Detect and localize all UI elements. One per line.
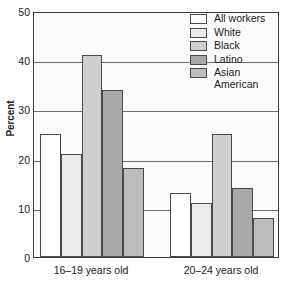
y-tick-label: 20 bbox=[8, 155, 30, 165]
bar bbox=[212, 134, 233, 257]
y-tick-label: 40 bbox=[8, 56, 30, 66]
bar bbox=[170, 193, 191, 257]
bar bbox=[40, 134, 61, 257]
bar-chart: Percent 01020304050 16–19 years old20–24… bbox=[0, 0, 295, 299]
bar bbox=[82, 55, 103, 257]
bar bbox=[61, 154, 82, 257]
legend-item: Asian American bbox=[190, 67, 295, 90]
bottom-caption bbox=[2, 291, 293, 298]
legend-swatch bbox=[190, 14, 207, 24]
legend-swatch bbox=[190, 28, 207, 38]
bar bbox=[123, 168, 144, 257]
x-axis-group-label: 20–24 years old bbox=[161, 264, 281, 276]
legend-swatch bbox=[190, 41, 207, 51]
bar bbox=[191, 203, 212, 257]
legend-label: Asian American bbox=[214, 67, 258, 90]
y-tick-label: 30 bbox=[8, 105, 30, 115]
y-tick-label: 50 bbox=[8, 7, 30, 17]
legend-label: Black bbox=[214, 40, 240, 52]
legend: All workersWhiteBlackLatinoAsian America… bbox=[190, 13, 295, 92]
legend-swatch bbox=[190, 68, 207, 78]
bar bbox=[253, 218, 274, 257]
legend-item: All workers bbox=[190, 13, 295, 25]
legend-swatch bbox=[190, 55, 207, 65]
bar bbox=[232, 188, 253, 257]
legend-label: All workers bbox=[214, 13, 265, 25]
bar bbox=[102, 90, 123, 257]
y-tick-label: 10 bbox=[8, 204, 30, 214]
y-axis-tick-labels: 01020304050 bbox=[6, 0, 30, 299]
y-tick-label: 0 bbox=[8, 253, 30, 263]
legend-label: White bbox=[214, 27, 241, 39]
legend-item: White bbox=[190, 27, 295, 39]
legend-item: Latino bbox=[190, 54, 295, 66]
legend-item: Black bbox=[190, 40, 295, 52]
x-axis-group-label: 16–19 years old bbox=[31, 264, 151, 276]
legend-label: Latino bbox=[214, 54, 243, 66]
